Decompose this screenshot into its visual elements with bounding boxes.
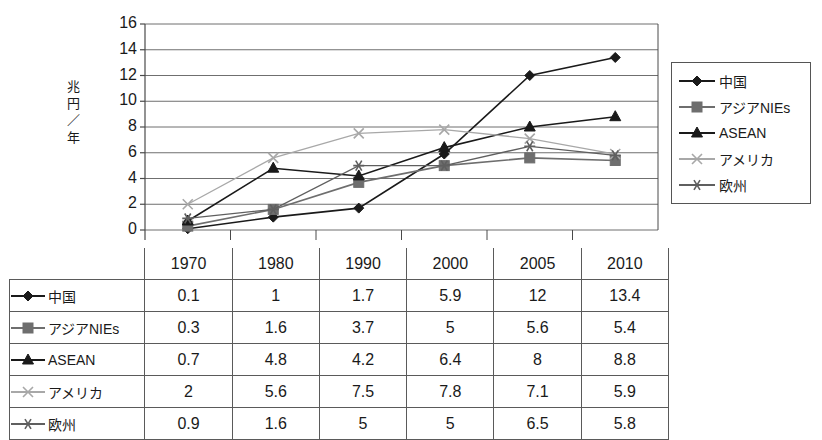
chart-legend: 中国アジアNIEsASEANアメリカ欧州 — [671, 62, 811, 204]
triangle-marker — [23, 354, 34, 364]
table-cell: 2 — [145, 376, 232, 408]
legend-item[interactable]: アジアNIEs — [678, 94, 804, 120]
legend-key-diamond — [678, 73, 716, 89]
series-marker-diamond — [610, 52, 620, 62]
table-cell: 5.9 — [407, 280, 494, 312]
asterisk-marker — [23, 419, 34, 429]
row-label-inner: ASEAN — [10, 352, 144, 368]
table-cell: 4.2 — [319, 344, 406, 376]
diamond-marker — [692, 76, 702, 86]
series-marker-triangle — [182, 215, 193, 225]
table-column-header: 1970 — [145, 248, 232, 280]
table-row-label-cell: アメリカ — [10, 376, 145, 408]
table-column-header: 2005 — [494, 248, 581, 280]
series-3 — [182, 111, 621, 225]
table-row: アジアNIEs0.31.63.755.65.4 — [10, 312, 669, 344]
row-label-inner: 中国 — [10, 286, 144, 306]
table-column-header: 1980 — [232, 248, 319, 280]
row-label-text: アメリカ — [46, 382, 103, 402]
square-marker — [692, 102, 702, 112]
legend-item[interactable]: 欧州 — [678, 172, 804, 198]
table-cell: 12 — [494, 280, 581, 312]
table-row: ASEAN0.74.84.26.488.8 — [10, 344, 669, 376]
data-table: 197019801990200020052010 中国0.111.75.9121… — [9, 248, 669, 440]
row-key-x — [10, 384, 46, 400]
y-tick-label: 0 — [101, 220, 137, 238]
table-cell: 8 — [494, 344, 581, 376]
table-row-label-cell: アジアNIEs — [10, 312, 145, 344]
table-row-label-cell: ASEAN — [10, 344, 145, 376]
legend-key-triangle — [678, 125, 716, 141]
diamond-marker — [610, 52, 620, 62]
y-tick-label: 16 — [101, 14, 137, 32]
series-marker-triangle — [610, 111, 621, 121]
table-corner-cell — [10, 248, 145, 280]
table-cell: 5.8 — [581, 408, 668, 440]
series-marker-square — [23, 323, 33, 333]
table-row: アメリカ25.67.57.87.15.9 — [10, 376, 669, 408]
y-axis-label-char: 兆 — [58, 78, 88, 95]
legend-label: 中国 — [716, 71, 747, 91]
table-cell: 8.8 — [581, 344, 668, 376]
table-cell: 5.6 — [232, 376, 319, 408]
y-tick-label: 2 — [101, 194, 137, 212]
table-cell: 1.6 — [232, 408, 319, 440]
table-row: 中国0.111.75.91213.4 — [10, 280, 669, 312]
table-header-row: 197019801990200020052010 — [10, 248, 669, 280]
legend-key-square — [678, 99, 716, 115]
diamond-marker — [23, 291, 33, 301]
triangle-marker — [610, 111, 621, 121]
table-cell: 0.3 — [145, 312, 232, 344]
legend-label: ASEAN — [716, 125, 766, 141]
table-cell: 5 — [407, 312, 494, 344]
legend-key-asterisk — [678, 177, 716, 193]
row-label-inner: アジアNIEs — [10, 318, 144, 338]
square-marker — [23, 323, 33, 333]
legend-item[interactable]: 中国 — [678, 68, 804, 94]
legend-label: アジアNIEs — [716, 97, 790, 117]
table-cell: 5.9 — [581, 376, 668, 408]
square-marker — [525, 153, 535, 163]
triangle-marker — [692, 127, 703, 137]
table-cell: 0.7 — [145, 344, 232, 376]
row-label-inner: アメリカ — [10, 382, 144, 402]
table-cell: 0.9 — [145, 408, 232, 440]
y-axis-label-char: 年 — [58, 129, 88, 146]
table-cell: 13.4 — [581, 280, 668, 312]
series-marker-diamond — [23, 291, 33, 301]
y-tick-label: 14 — [101, 40, 137, 58]
triangle-marker — [268, 162, 279, 172]
table-cell: 1 — [232, 280, 319, 312]
table-row-label-cell: 欧州 — [10, 408, 145, 440]
row-label-inner: 欧州 — [10, 414, 144, 434]
table-cell: 4.8 — [232, 344, 319, 376]
series-marker-square — [692, 102, 702, 112]
y-tick-label: 8 — [101, 117, 137, 135]
y-tick-label: 6 — [101, 143, 137, 161]
series-line — [188, 158, 616, 226]
table-column-header: 2010 — [581, 248, 668, 280]
table-row-label-cell: 中国 — [10, 280, 145, 312]
series-marker-triangle — [268, 162, 279, 172]
row-label-text: アジアNIEs — [46, 318, 119, 338]
series-marker-triangle — [692, 127, 703, 137]
legend-key-x — [678, 151, 716, 167]
legend-item[interactable]: ASEAN — [678, 120, 804, 146]
table-cell: 5.6 — [494, 312, 581, 344]
series-marker-asterisk — [692, 180, 703, 190]
y-axis-label-char: 円 — [58, 95, 88, 112]
row-key-triangle — [10, 352, 46, 368]
table-body: 中国0.111.75.91213.4アジアNIEs0.31.63.755.65.… — [10, 280, 669, 440]
table-cell: 5.4 — [581, 312, 668, 344]
series-marker-square — [525, 153, 535, 163]
row-key-square — [10, 320, 46, 336]
table-row: 欧州0.91.6556.55.8 — [10, 408, 669, 440]
table-cell: 7.8 — [407, 376, 494, 408]
row-label-text: ASEAN — [46, 352, 95, 368]
row-key-diamond — [10, 288, 46, 304]
table-cell: 1.7 — [319, 280, 406, 312]
table-cell: 7.1 — [494, 376, 581, 408]
table-cell: 5 — [407, 408, 494, 440]
chart-page: 兆円／年 0246810121416 中国アジアNIEsASEANアメリカ欧州 … — [0, 0, 822, 440]
legend-item[interactable]: アメリカ — [678, 146, 804, 172]
